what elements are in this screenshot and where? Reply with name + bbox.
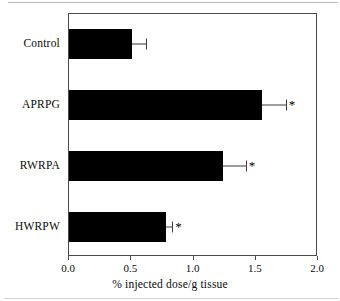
tick-mark bbox=[193, 256, 194, 260]
tick-mark bbox=[255, 256, 256, 260]
error-bar-cap-aprpg bbox=[286, 100, 287, 111]
bar-row: * bbox=[69, 90, 318, 120]
category-label-rwrpa: RWRPA bbox=[20, 159, 60, 171]
tick-mark bbox=[68, 256, 69, 260]
error-bar-rwrpa bbox=[223, 165, 245, 166]
tick-label: 2.0 bbox=[310, 262, 324, 274]
significance-marker-rwrpa: * bbox=[249, 159, 256, 172]
bar-control bbox=[69, 29, 132, 59]
tick-label: 1.5 bbox=[248, 262, 262, 274]
bars-container: *** bbox=[69, 14, 316, 255]
tick-mark bbox=[130, 256, 131, 260]
bar-row: * bbox=[69, 151, 318, 181]
bar-hwrpw bbox=[69, 212, 166, 242]
bar-chart-figure: ControlAPRPGRWRPAHWRPW *** 0.00.51.01.52… bbox=[0, 0, 340, 301]
significance-marker-aprpg: * bbox=[289, 98, 296, 111]
error-bar-cap-control bbox=[146, 39, 147, 50]
tick-label: 0.5 bbox=[123, 262, 137, 274]
category-label-control: Control bbox=[23, 37, 60, 49]
bar-row: * bbox=[69, 212, 318, 242]
bar-rwrpa bbox=[69, 151, 223, 181]
error-bar-aprpg bbox=[262, 105, 286, 106]
error-bar-cap-rwrpa bbox=[246, 160, 247, 171]
significance-marker-hwrpw: * bbox=[175, 220, 182, 233]
tick-mark bbox=[317, 256, 318, 260]
tick-label: 0.0 bbox=[61, 262, 75, 274]
x-axis-title: % injected dose/g tissue bbox=[0, 278, 340, 290]
bar-aprpg bbox=[69, 90, 262, 120]
error-bar-cap-hwrpw bbox=[172, 221, 173, 232]
error-bar-control bbox=[132, 44, 146, 45]
category-axis-labels: ControlAPRPGRWRPAHWRPW bbox=[0, 13, 64, 256]
tick-label: 1.0 bbox=[186, 262, 200, 274]
plot-area: *** bbox=[68, 13, 317, 256]
category-label-hwrpw: HWRPW bbox=[15, 220, 60, 232]
bar-row bbox=[69, 29, 318, 59]
category-label-aprpg: APRPG bbox=[22, 98, 60, 110]
